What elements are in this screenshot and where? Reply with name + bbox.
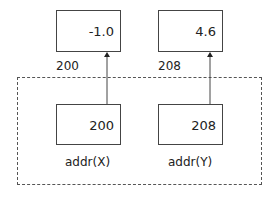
arrowhead-icon [104,52,110,57]
arrows [0,0,276,197]
arrowhead-icon [207,52,213,57]
